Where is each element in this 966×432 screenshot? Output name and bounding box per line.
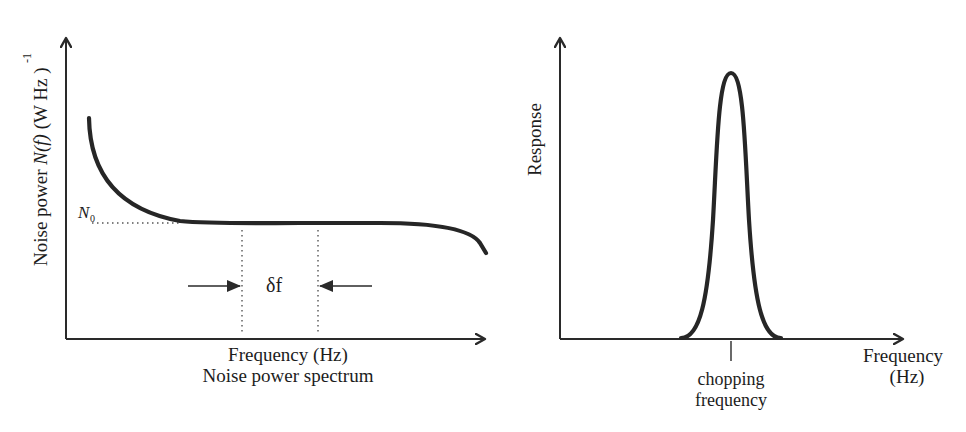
tick-label-line1: chopping bbox=[698, 369, 765, 389]
y-axis-label-left: Noise power N(f) (W Hz ) bbox=[30, 67, 52, 266]
n0-label: N bbox=[77, 203, 91, 222]
noise-spectrum-panel: Noise power N(f) (W Hz ) -1 N 0 δf Frequ… bbox=[20, 38, 486, 386]
y-axis-label-right: Response bbox=[524, 103, 545, 176]
diagram-canvas: Noise power N(f) (W Hz ) -1 N 0 δf Frequ… bbox=[0, 0, 966, 432]
delta-f-label: δf bbox=[266, 274, 282, 296]
x-axis-label-right-line1: Frequency bbox=[863, 345, 944, 366]
x-axis-label-right-line2: (Hz) bbox=[890, 366, 925, 388]
x-axis-label-left: Frequency (Hz) bbox=[228, 344, 348, 366]
panel-caption: Noise power spectrum bbox=[203, 365, 374, 386]
response-peak-curve bbox=[681, 73, 781, 338]
y-axis-label-exponent: -1 bbox=[20, 53, 34, 63]
tick-label-line2: frequency bbox=[695, 390, 767, 410]
response-panel: Response chopping frequency Frequency (H… bbox=[524, 38, 944, 410]
noise-power-curve bbox=[89, 118, 486, 253]
